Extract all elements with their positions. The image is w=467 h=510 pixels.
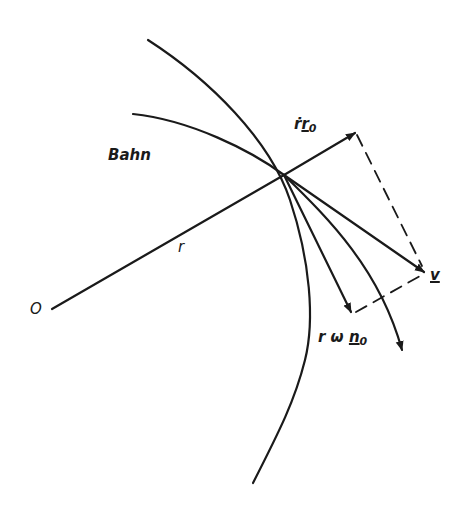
orbit-label: Bahn <box>108 148 151 163</box>
velocity-label: v <box>430 268 440 283</box>
circle-arc <box>148 40 310 483</box>
tangential-subscript: 0 <box>360 335 368 348</box>
dashed-line-lower <box>356 276 420 312</box>
orbit-velocity-diagram: Bahn O r ṙr0 r ω n0 v <box>0 0 467 510</box>
tangential-velocity-vector <box>284 175 351 312</box>
diagram-svg <box>0 0 467 510</box>
tangential-velocity-prefix: r ω <box>318 328 349 346</box>
dashed-line-upper <box>357 135 422 266</box>
normal-unit-vector: n <box>349 328 360 346</box>
radial-velocity-vector <box>284 133 355 175</box>
radius-label: r <box>178 240 184 255</box>
orbit-tangent-arrow <box>284 175 402 350</box>
radial-subscript: 0 <box>309 122 317 135</box>
radial-unit-vector: r <box>301 115 308 133</box>
radius-line <box>52 175 284 309</box>
origin-label: O <box>30 302 42 317</box>
tangential-velocity-label: r ω n0 <box>318 330 367 347</box>
radial-velocity-label: ṙr0 <box>294 117 316 134</box>
